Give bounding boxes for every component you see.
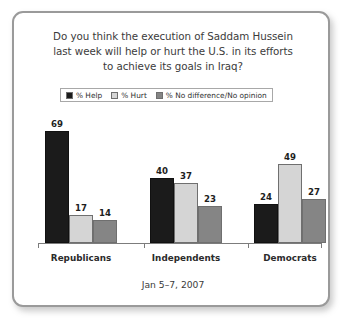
x-axis-line	[38, 243, 322, 244]
category-label-democrats: Democrats	[238, 253, 342, 263]
bar-republicans-series-2	[69, 215, 93, 243]
chart-card: Do you think the execution of Saddam Hus…	[12, 11, 330, 307]
bar-democrats-series-3	[302, 199, 326, 243]
bar-value-republicans-series-1: 69	[41, 119, 73, 129]
category-label-republicans: Republicans	[29, 253, 133, 263]
bar-value-independents-series-3: 23	[194, 194, 226, 204]
bar-value-independents-series-2: 37	[170, 171, 202, 181]
x-axis-tick-1	[38, 243, 39, 248]
chart-footer-note: Jan 5–7, 2007	[28, 279, 318, 290]
bar-value-democrats-series-2: 49	[274, 152, 306, 162]
bar-republicans-series-1	[45, 131, 69, 243]
category-label-independents: Independents	[134, 253, 238, 263]
bar-value-republicans-series-3: 14	[89, 208, 121, 218]
bar-democrats-series-1	[254, 204, 278, 243]
plot-area: 691714Republicans403723Independents24492…	[14, 13, 332, 309]
x-axis-tick-4	[321, 243, 322, 248]
x-axis-tick-2	[144, 243, 145, 248]
bar-independents-series-3	[198, 206, 222, 243]
bar-independents-series-1	[150, 178, 174, 243]
bar-independents-series-2	[174, 183, 198, 243]
x-axis-tick-3	[248, 243, 249, 248]
bar-value-democrats-series-3: 27	[298, 187, 330, 197]
bar-republicans-series-3	[93, 220, 117, 243]
bar-democrats-series-2	[278, 164, 302, 243]
